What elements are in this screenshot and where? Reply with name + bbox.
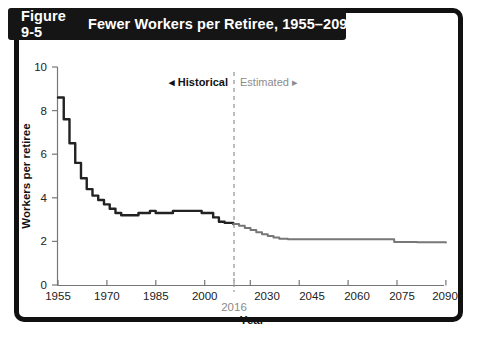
x-tick-label-2016: 2016: [221, 301, 247, 313]
y-tick-label-8: 8: [41, 105, 47, 117]
plot-area: 10 8 6 4 2 0 Workers per retiree: [0, 0, 481, 351]
y-tick-label-2: 2: [41, 235, 47, 247]
y-axis-ticks: [52, 67, 58, 285]
x-tick-label-2075: 2075: [389, 290, 415, 302]
figure-container: 10 8 6 4 2 0 Workers per retiree: [0, 0, 481, 351]
figure-number: Figure 9-5: [21, 8, 66, 40]
annotation-estimated: Estimated ▸: [240, 76, 298, 88]
series-line-historical: [58, 98, 233, 224]
x-tick-label-1970: 1970: [94, 290, 120, 302]
x-axis-ticks: [58, 280, 446, 286]
x-axis-title: Year: [240, 314, 265, 326]
x-tick-label-2030: 2030: [254, 290, 280, 302]
x-tick-label-1985: 1985: [143, 290, 169, 302]
x-tick-label-2060: 2060: [344, 290, 370, 302]
x-tick-label-2090: 2090: [432, 290, 458, 302]
annotation-historical: ◂ Historical: [168, 76, 228, 88]
figure-title-banner: Figure 9-5 Fewer Workers per Retiree, 19…: [8, 8, 346, 40]
y-tick-label-4: 4: [41, 192, 48, 204]
series-line-estimated: [233, 224, 446, 243]
chart-svg: 10 8 6 4 2 0 Workers per retiree: [0, 0, 481, 351]
y-axis-title: Workers per retiree: [20, 123, 32, 228]
x-tick-label-2045: 2045: [299, 290, 325, 302]
x-tick-label-1955: 1955: [45, 290, 71, 302]
y-tick-label-10: 10: [34, 61, 47, 73]
y-tick-label-6: 6: [41, 148, 47, 160]
x-tick-label-2000: 2000: [192, 290, 218, 302]
figure-title: Fewer Workers per Retiree, 1955–2090: [88, 16, 356, 32]
